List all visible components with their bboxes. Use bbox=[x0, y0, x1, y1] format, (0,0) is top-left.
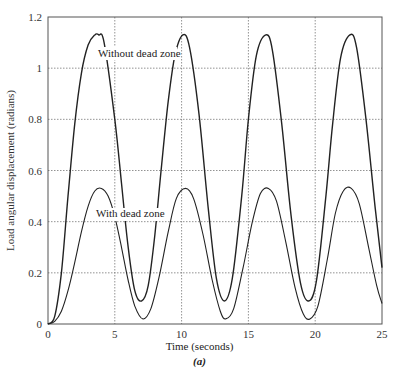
y-tick-label: 0 bbox=[37, 318, 43, 330]
y-tick-label: 0.4 bbox=[28, 216, 42, 228]
x-tick-label: 0 bbox=[45, 328, 51, 340]
y-tick-label: 1 bbox=[37, 62, 43, 74]
x-tick-label: 20 bbox=[310, 328, 322, 340]
y-tick-label: 0.8 bbox=[28, 113, 42, 125]
y-tick-label: 0.6 bbox=[28, 165, 42, 177]
line-chart: 051015202500.20.40.60.811.2Load angular … bbox=[0, 0, 399, 379]
x-tick-label: 25 bbox=[377, 328, 389, 340]
annotation-with-dead-zone: With dead zone bbox=[96, 207, 165, 219]
x-axis-label: Time (seconds) bbox=[0, 340, 399, 352]
subfigure-label: (a) bbox=[0, 355, 399, 367]
y-tick-label: 1.2 bbox=[28, 11, 42, 23]
x-tick-label: 10 bbox=[176, 328, 188, 340]
y-tick-label: 0.2 bbox=[28, 267, 42, 279]
without-dead-zone-line bbox=[48, 34, 382, 324]
y-axis-label: Load angular displacement (radians) bbox=[4, 90, 17, 251]
x-tick-label: 5 bbox=[112, 328, 118, 340]
plot-frame bbox=[48, 17, 382, 324]
annotation-without-dead-zone: Without dead zone bbox=[98, 47, 181, 59]
x-tick-label: 15 bbox=[243, 328, 255, 340]
